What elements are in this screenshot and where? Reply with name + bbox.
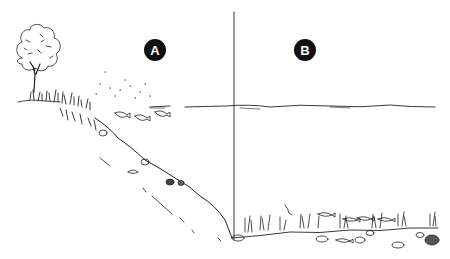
rock-icon — [232, 231, 439, 249]
zone-label-b: B — [294, 39, 316, 61]
shore-slope — [95, 118, 232, 238]
reeds — [30, 90, 96, 130]
speckles — [96, 72, 151, 98]
rock-icon — [99, 130, 184, 186]
aquatic-plant-icon — [245, 212, 436, 232]
depth-dashes — [100, 158, 221, 241]
tree-icon — [17, 24, 61, 92]
water-line — [150, 105, 435, 107]
lake-zones-illustration — [0, 0, 450, 259]
zone-label-a: A — [144, 39, 166, 61]
lake-bottom — [232, 228, 438, 238]
